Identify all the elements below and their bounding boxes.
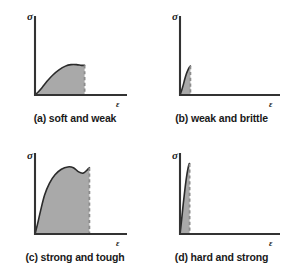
y-axis-label-a: σ [27, 10, 34, 22]
chart-a: σ ε [0, 0, 150, 112]
plot-area-c: σ ε [0, 139, 150, 251]
caption-a: (a) soft and weak [34, 113, 117, 124]
stress-strain-figure: σ ε (a) soft and weak σ ε (b) we [0, 0, 293, 279]
y-axis-label-b: σ [172, 10, 179, 22]
y-axis-label-d: σ [172, 149, 179, 161]
x-axis-label-c: ε [116, 238, 120, 248]
panel-a: σ ε (a) soft and weak [0, 0, 150, 139]
plot-area-b: σ ε [150, 0, 293, 112]
x-axis-label-b: ε [269, 99, 273, 109]
y-axis-label-c: σ [27, 149, 34, 161]
caption-b: (b) weak and brittle [175, 113, 268, 124]
panel-b: σ ε (b) weak and brittle [150, 0, 293, 139]
x-axis-label-d: ε [269, 238, 273, 248]
chart-c: σ ε [0, 139, 150, 251]
panel-d: σ ε (d) hard and strong [150, 139, 293, 279]
plot-area-d: σ ε [150, 139, 293, 251]
caption-d: (d) hard and strong [175, 252, 268, 263]
chart-b: σ ε [150, 0, 293, 112]
chart-d: σ ε [150, 139, 293, 251]
caption-c: (c) strong and tough [25, 252, 124, 263]
plot-area-a: σ ε [0, 0, 150, 112]
x-axis-label-a: ε [116, 99, 120, 109]
panel-c: σ ε (c) strong and tough [0, 139, 150, 279]
